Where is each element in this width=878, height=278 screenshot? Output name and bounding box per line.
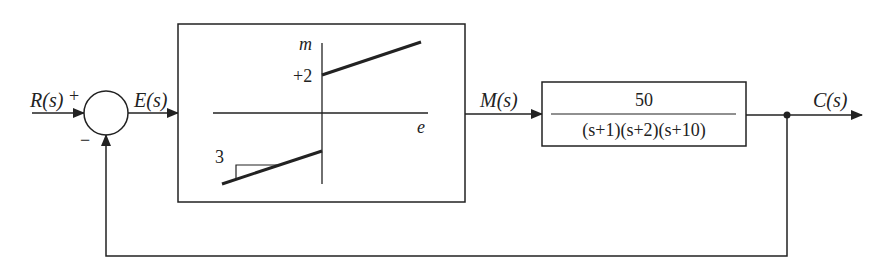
manipulated-label: M(s) bbox=[479, 89, 518, 112]
block-diagram: R(s) + − E(s) m +2 e 3 M(s) 50 (s+1)(s+2… bbox=[0, 0, 878, 278]
m-axis-label: m bbox=[299, 34, 312, 54]
slope-label: 3 bbox=[215, 147, 224, 167]
error-label: E(s) bbox=[133, 89, 168, 112]
minus-sign: − bbox=[80, 130, 90, 150]
output-label: C(s) bbox=[813, 89, 848, 112]
plant-numerator: 50 bbox=[635, 90, 653, 110]
summing-junction bbox=[84, 91, 128, 135]
plant-denominator: (s+1)(s+2)(s+10) bbox=[582, 120, 705, 141]
input-label: R(s) bbox=[29, 89, 64, 112]
offset-label: +2 bbox=[293, 66, 312, 86]
e-axis-label: e bbox=[417, 117, 425, 137]
plus-sign: + bbox=[69, 86, 79, 106]
